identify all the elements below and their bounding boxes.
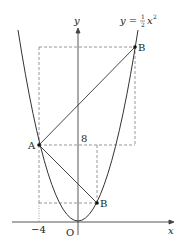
point-A [37,143,41,147]
x-axis-arrow-icon [169,220,174,224]
parabola-diagram: A B B O −4 8 y x y = 1 2 x 2 [0,0,188,247]
tick-label-x: −4 [31,224,46,235]
segment-A-B-lower [39,145,97,203]
segment-A-B-upper [39,47,135,145]
curve-label-prefix: y = [119,15,137,26]
label-origin: O [66,227,74,238]
axes [12,28,174,235]
label-B-upper: B [138,42,145,53]
x-axis-label: x [168,225,174,236]
curve-equation-label: y = 1 2 x 2 [119,13,157,28]
curve-label-exponent: 2 [153,13,157,20]
point-B-lower [95,201,99,205]
y-axis-label: y [73,15,80,26]
label-B-lower: B [100,198,107,209]
curve-label-numerator: 1 [141,13,145,20]
curve-label-denominator: 2 [141,21,145,28]
y-axis-arrow-icon [76,28,80,33]
point-B-upper [133,45,137,49]
label-A: A [27,140,36,151]
tick-label-y: 8 [81,133,87,144]
